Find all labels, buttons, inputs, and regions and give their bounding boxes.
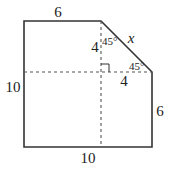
label-bottom: 10: [81, 150, 96, 166]
label-left: 10: [6, 79, 21, 95]
right-angle-marker: [101, 64, 109, 72]
label-angle-right: 45°: [129, 60, 144, 72]
label-angle-top: 45°: [102, 35, 117, 47]
geometry-diagram: 6 10 10 6 x 4 4 45° 45°: [0, 0, 176, 178]
label-hypotenuse: x: [127, 30, 135, 46]
label-horizontal-leg: 4: [120, 73, 128, 89]
label-top: 6: [54, 4, 62, 20]
label-vertical-leg: 4: [91, 39, 99, 55]
label-right: 6: [156, 103, 164, 119]
